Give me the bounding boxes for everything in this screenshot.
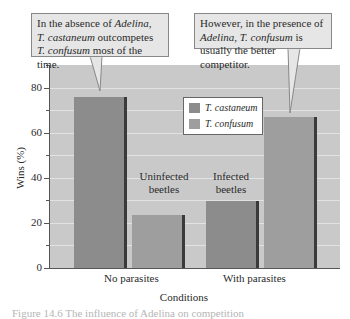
annotation-uninfected-beetles: Uninfected beetles (132, 170, 196, 196)
bar-castaneum-no-parasites (74, 97, 124, 268)
callout-right-line1: However, in the presence of (200, 17, 326, 31)
callout-left-line3: T. confusum most of the time. (37, 44, 163, 71)
legend: T. castaneum T. confusum (183, 97, 263, 135)
y-tick-50 (46, 155, 50, 156)
y-tick-40 (44, 178, 50, 179)
legend-label-castaneum: T. castaneum (205, 102, 258, 113)
annotation-infected-line1: Infected (206, 170, 256, 183)
annotation-infected-beetles: Infected beetles (206, 170, 256, 196)
annotation-uninfected-line1: Uninfected (132, 170, 196, 183)
callout-left: In the absence of Adelina, T. castaneum … (31, 13, 169, 57)
y-tick-0 (44, 268, 50, 269)
legend-swatch-confusum (189, 119, 200, 129)
bar-confusum-no-parasites (132, 215, 182, 268)
y-tick-80 (44, 88, 50, 89)
annotation-uninfected-line2: beetles (132, 183, 196, 196)
legend-swatch-castaneum (189, 103, 200, 113)
bar-confusum-with-parasites (264, 117, 314, 268)
bar-castaneum-with-parasites (206, 201, 256, 268)
y-axis-title: Wins (%) (14, 143, 26, 193)
y-tick-label-80: 80 (20, 81, 42, 93)
figure-caption: Figure 14.6 The influence of Adelina on … (12, 307, 244, 319)
x-category-with-parasites: With parasites (223, 272, 286, 284)
y-tick-60 (44, 133, 50, 134)
callout-right-line2: Adelina, T. confusum is (200, 31, 326, 45)
y-tick-10 (46, 245, 50, 246)
callout-left-line1: In the absence of Adelina, (37, 17, 163, 31)
y-tick-70 (46, 110, 50, 111)
y-axis (49, 65, 50, 269)
x-category-no-parasites: No parasites (104, 272, 159, 284)
y-tick-20 (44, 223, 50, 224)
callout-right-line3: usually the better competitor. (200, 44, 326, 71)
callout-left-line2: T. castaneum outcompetes (37, 31, 163, 45)
legend-item-confusum: T. confusum (189, 118, 253, 129)
y-tick-label-20: 20 (20, 216, 42, 228)
callout-right: However, in the presence of Adelina, T. … (194, 13, 332, 49)
x-axis (44, 268, 340, 269)
annotation-infected-line2: beetles (206, 183, 256, 196)
y-tick-label-60: 60 (20, 126, 42, 138)
y-tick-30 (46, 200, 50, 201)
y-tick-label-0: 0 (20, 261, 42, 273)
legend-item-castaneum: T. castaneum (189, 102, 258, 113)
x-axis-title: Conditions (0, 291, 350, 303)
legend-label-confusum: T. confusum (205, 118, 253, 129)
